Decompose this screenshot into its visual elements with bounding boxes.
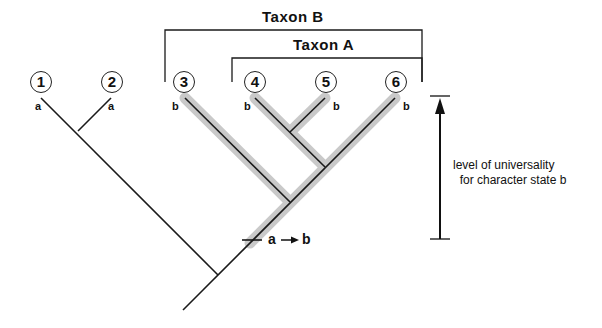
state-label-3: b: [172, 100, 179, 112]
taxon-node-6: 6: [385, 71, 407, 93]
taxon-node-5: 5: [315, 71, 337, 93]
universality-caption-line1: level of universality: [453, 158, 554, 173]
taxon-node-1: 1: [30, 71, 52, 93]
tree-branches: [41, 98, 395, 310]
state-label-6: b: [403, 100, 410, 112]
arrow-head-icon: [435, 98, 445, 114]
transition-arrow: [281, 237, 299, 244]
taxon-a-label: Taxon A: [293, 36, 354, 53]
branch-2: [78, 98, 111, 131]
state-label-1: a: [35, 100, 41, 112]
branch-1: [41, 98, 218, 275]
taxon-b-label: Taxon B: [262, 8, 324, 25]
state-label-5: b: [333, 100, 340, 112]
taxon-node-3: 3: [173, 71, 195, 93]
universality-arrow: [430, 96, 450, 239]
universality-caption-line2: for character state b: [453, 173, 566, 188]
branch-5: [290, 98, 325, 132]
state-label-2: a: [108, 100, 114, 112]
arrow-right-icon: [291, 237, 299, 244]
state-label-4: b: [244, 100, 251, 112]
state-b-highlight: [185, 98, 395, 243]
taxon-node-4: 4: [244, 71, 266, 93]
transition-to-label: b: [302, 231, 311, 247]
taxon-node-2: 2: [101, 71, 123, 93]
transition-from-label: a: [268, 231, 276, 247]
